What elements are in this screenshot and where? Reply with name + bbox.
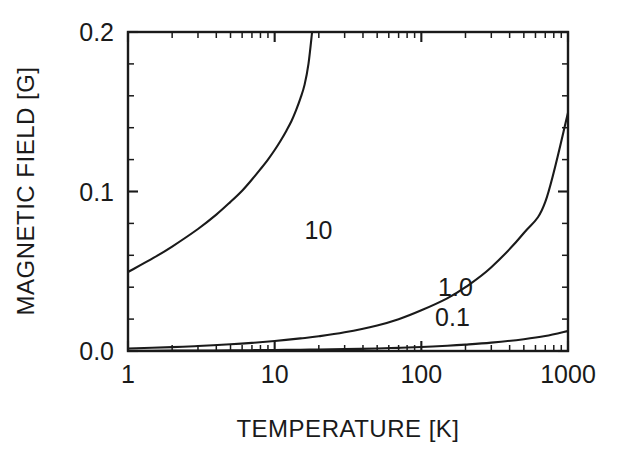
x-axis-tick-labels: 1101001000 [121, 360, 596, 388]
axis-ticks [128, 32, 568, 351]
x-tick-label: 10 [261, 360, 289, 388]
y-axis-tick-labels: 0.00.10.2 [79, 18, 114, 365]
magnetic-field-vs-temperature-plot: 1101001000 0.00.10.2 101.00.1 TEMPERATUR… [0, 0, 630, 454]
curve-label-1-0: 1.0 [438, 273, 473, 301]
curve-label-0-1: 0.1 [435, 303, 470, 331]
x-tick-label: 1000 [540, 360, 596, 388]
curve-label-10: 10 [305, 216, 333, 244]
curve-10 [128, 32, 312, 272]
chart-figure: 1101001000 0.00.10.2 101.00.1 TEMPERATUR… [0, 0, 630, 454]
y-tick-label: 0.1 [79, 178, 114, 206]
y-tick-label: 0.2 [79, 18, 114, 46]
x-tick-label: 1 [121, 360, 135, 388]
curve-0-1 [128, 331, 568, 351]
curve-labels: 101.00.1 [305, 216, 473, 332]
data-curves [128, 32, 568, 351]
plot-frame [128, 32, 568, 351]
x-tick-label: 100 [400, 360, 442, 388]
y-axis-title: MAGNETIC FIELD [G] [12, 66, 39, 315]
x-axis-title: TEMPERATURE [K] [236, 415, 459, 442]
y-tick-label: 0.0 [79, 337, 114, 365]
